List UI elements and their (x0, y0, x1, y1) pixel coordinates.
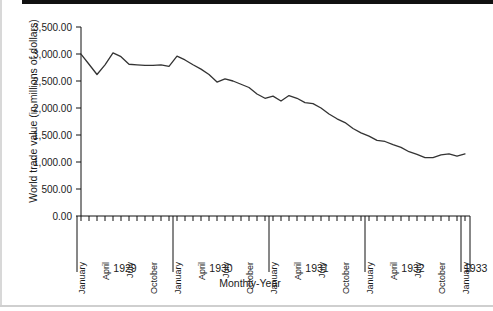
y-axis-tick-label: 2,000.00 (33, 103, 72, 114)
y-axis-tick-label: 1,500.00 (33, 130, 72, 141)
y-axis-tick-label: 2,500.00 (33, 76, 72, 87)
x-axis-month-label: January (365, 262, 375, 295)
y-axis-tick-label: 1,000.00 (33, 157, 72, 168)
x-axis-month-label: April (197, 262, 207, 280)
x-axis-year-label: 1932 (401, 262, 425, 274)
x-axis-month-label: October (149, 262, 159, 294)
x-axis-month-label: January (269, 262, 279, 295)
chart-figure: World trade value (in millions of dollar… (0, 0, 493, 311)
chart-plot-area: 0.00500.001,000.001,500.002,000.002,500.… (0, 0, 493, 311)
x-axis-month-label: April (101, 262, 111, 280)
y-axis-tick-label: 500.00 (41, 184, 72, 195)
x-axis-year-label: 1933 (464, 262, 488, 274)
x-axis-tick-group (81, 216, 465, 221)
x-axis-month-label: October (437, 262, 447, 294)
x-axis-year-label: 1930 (209, 262, 233, 274)
y-axis-tick-label: 3,500.00 (33, 22, 72, 33)
x-axis-month-label: October (341, 262, 351, 294)
x-axis-month-label: January (77, 262, 87, 295)
y-axis-tick-label: 3,000.00 (33, 49, 72, 60)
x-axis-year-label: 1931 (305, 262, 329, 274)
x-axis-month-label: April (293, 262, 303, 280)
x-axis-year-label: 1929 (113, 262, 137, 274)
x-axis-month-label: January (173, 262, 183, 295)
world-trade-value-line (81, 53, 465, 158)
x-axis-month-label: April (389, 262, 399, 280)
y-axis-tick-group: 0.00500.001,000.001,500.002,000.002,500.… (33, 22, 81, 222)
x-axis-month-label: October (245, 262, 255, 294)
y-axis-tick-label: 0.00 (53, 211, 73, 222)
